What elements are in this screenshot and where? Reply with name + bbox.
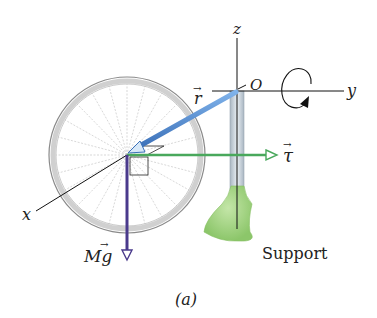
- rotation-arrow-icon: [282, 69, 311, 108]
- vector-arrow-glyph: →: [283, 139, 292, 150]
- wheel-torque-diagram: z y x O r → τ → Mg → Support (a): [0, 0, 377, 318]
- r-vector-arrow: [128, 92, 236, 153]
- z-axis-label: z: [232, 20, 241, 38]
- figure-caption: (a): [175, 290, 197, 309]
- vector-arrow-glyph: →: [193, 83, 202, 94]
- support-base: [204, 186, 252, 241]
- y-axis-label: y: [346, 81, 357, 100]
- r-vector-label: r →: [193, 83, 203, 108]
- mg-vector-arrow: [122, 155, 132, 260]
- mg-vector-label: Mg →: [83, 239, 112, 266]
- tau-vector-label: τ →: [283, 139, 294, 166]
- x-axis-label: x: [22, 205, 31, 224]
- support-label: Support: [262, 244, 328, 263]
- vector-arrow-glyph: →: [100, 239, 109, 250]
- origin-label: O: [250, 76, 262, 94]
